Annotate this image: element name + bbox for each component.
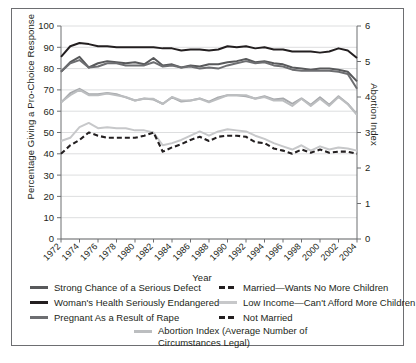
legend-item-right-0: Married—Wants No More Children (219, 281, 415, 295)
x-tick-label: 1974 (60, 241, 81, 262)
y-tick-label-left: 30 (43, 170, 54, 181)
y-tick-label-left: 100 (38, 20, 54, 31)
legend-label-abortion-index: Abortion Index (Average Number of (158, 325, 308, 338)
legend-swatch-left-2 (30, 312, 48, 323)
legend-label-right-0: Married—Wants No More Children (243, 282, 388, 293)
y-tick-label-left: 90 (43, 42, 54, 53)
line-chart-svg: 0102030405060708090100012345619721974197… (12, 9, 403, 281)
y-tick-label-left: 10 (43, 212, 54, 223)
y-axis-label-left: Percentage Giving a Pro-Choice Response (25, 40, 36, 200)
y-axis-left-ticks: 0102030405060708090100 (38, 20, 61, 244)
legend-item-right-2: Not Married (219, 311, 415, 325)
legend-label-right-1: Low Income—Can't Afford More Children (243, 297, 415, 308)
x-tick-label: 2002 (319, 241, 340, 262)
legend-item-abortion-index: Abortion Index (Average Number of (134, 325, 308, 338)
legend-label-left-1: Woman's Health Seriously Endangered (54, 297, 219, 308)
x-tick-label: 1998 (282, 241, 303, 262)
legend-swatch-abortion-index (134, 326, 152, 337)
legend-swatch-right-0 (219, 282, 237, 293)
y-tick-label-left: 20 (43, 191, 54, 202)
x-tick-label: 1982 (134, 241, 155, 262)
x-tick-label: 1980 (115, 241, 136, 262)
legend-label-right-2: Not Married (243, 312, 293, 323)
legend-swatch-left-0 (30, 282, 48, 293)
y-tick-label-left: 50 (43, 127, 54, 138)
x-tick-label: 1990 (208, 241, 229, 262)
y-axis-label-right: Abortion Index (369, 57, 380, 173)
x-tick-label: 1978 (97, 241, 118, 262)
y-tick-label-right: 6 (365, 20, 370, 31)
series-line-0 (61, 57, 357, 81)
series-line-1 (61, 43, 357, 58)
x-tick-label: 1994 (245, 241, 266, 262)
chart-figure: 0102030405060708090100012345619721974197… (11, 8, 404, 346)
legend-swatch-right-2 (219, 312, 237, 323)
legend-item-right-1: Low Income—Can't Afford More Children (219, 296, 415, 310)
y-tick-label-left: 60 (43, 106, 54, 117)
x-tick-label: 1986 (171, 241, 192, 262)
x-tick-label: 1988 (189, 241, 210, 262)
legend-label-left-2: Pregnant As a Result of Rape (54, 312, 179, 323)
data-series-group (61, 43, 357, 154)
y-tick-label-left: 70 (43, 84, 54, 95)
y-tick-label-right: 0 (365, 233, 370, 244)
legend-label-left-0: Strong Chance of a Serious Defect (54, 282, 201, 293)
x-axis-ticks: 1972197419761978198019821984198619881990… (41, 239, 358, 263)
y-tick-label-right: 1 (365, 198, 370, 209)
x-tick-label: 2000 (300, 241, 321, 262)
legend-swatch-right-1 (219, 297, 237, 308)
chart-legend: Strong Chance of a Serious DefectWoman's… (12, 281, 403, 345)
x-tick-label: 1992 (226, 241, 247, 262)
legend-item-left-2: Pregnant As a Result of Rape (30, 311, 219, 325)
y-tick-label-left: 80 (43, 63, 54, 74)
legend-swatch-left-1 (30, 297, 48, 308)
legend-column-left: Strong Chance of a Serious DefectWoman's… (30, 281, 219, 326)
x-tick-label: 1984 (152, 241, 173, 262)
legend-item-left-0: Strong Chance of a Serious Defect (30, 281, 219, 295)
legend-column-right: Married—Wants No More ChildrenLow Income… (219, 281, 415, 326)
legend-item-left-1: Woman's Health Seriously Endangered (30, 296, 219, 310)
legend-label-abortion-index-line2: Circumstances Legal) (158, 337, 250, 348)
x-tick-label: 1976 (78, 241, 99, 262)
x-tick-label: 2004 (337, 241, 358, 262)
x-tick-label: 1996 (263, 241, 284, 262)
gridlines (61, 26, 357, 239)
x-tick-label: 1972 (41, 241, 62, 262)
y-tick-label-left: 40 (43, 148, 54, 159)
